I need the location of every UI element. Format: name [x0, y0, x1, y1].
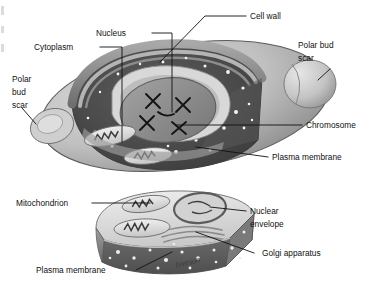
figure-canvas: Cell wall Nucleus Cytoplasm Polar bud sc…: [0, 0, 372, 302]
leader-polar-bud-left: [22, 108, 36, 124]
label-chromosome: Chromosome: [306, 120, 356, 130]
label-polar-bud-scar-right-line1: Polar bud: [298, 40, 334, 50]
page-margin-artifacts: [1, 6, 4, 52]
label-nuclear-envelope-line1: Nuclear: [250, 206, 279, 216]
label-polar-bud-scar-left-line3: scar: [12, 100, 28, 110]
label-mitochondrion: Mitochondrion: [16, 198, 69, 208]
label-polar-bud-scar-left-line1: Polar: [12, 74, 32, 84]
label-plasma-membrane-lower: Plasma membrane: [36, 265, 106, 275]
polar-bud-scar-right-knob: [284, 60, 336, 108]
label-polar-bud-scar-right-line2: scar: [298, 53, 314, 63]
label-golgi-apparatus: Golgi apparatus: [262, 248, 321, 258]
label-plasma-membrane-upper: Plasma membrane: [272, 152, 342, 162]
yeast-cell-diagram: Cell wall Nucleus Cytoplasm Polar bud sc…: [0, 0, 372, 302]
label-nuclear-envelope-line2: envelope: [250, 219, 284, 229]
label-nucleus: Nucleus: [96, 28, 126, 38]
label-polar-bud-scar-left-line2: bud: [12, 87, 26, 97]
label-cell-wall: Cell wall: [250, 11, 281, 21]
label-cytoplasm: Cytoplasm: [34, 42, 73, 52]
